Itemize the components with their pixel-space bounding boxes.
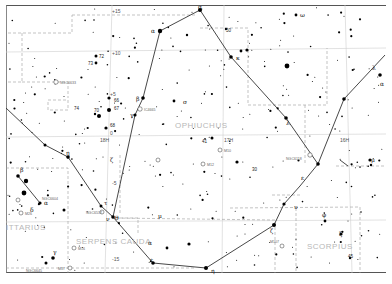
star-faint (293, 35, 294, 36)
star-faint (207, 194, 209, 196)
star-faint (283, 22, 285, 24)
constellation-label-sagittarius: ITTARIUS (6, 223, 46, 232)
star-faint (355, 241, 356, 242)
constellation-names: OPHIUCHUS SERPENS CAUDA SCORPIUS ITTARIU… (6, 121, 353, 251)
star-faint (29, 156, 30, 157)
star-faint (51, 171, 52, 172)
star-faint (118, 222, 120, 224)
star-label-zeta: ζ (270, 227, 274, 235)
star-faint (237, 235, 238, 236)
star-faint (190, 137, 192, 139)
star-faint (79, 143, 81, 145)
star-faint (348, 99, 349, 100)
star-faint (23, 102, 24, 103)
star-faint (319, 96, 321, 98)
star-faint (9, 68, 11, 70)
dso-m26 (19, 211, 23, 215)
scutum-figure (18, 176, 40, 203)
star-faint (34, 58, 35, 59)
star-faint (162, 186, 163, 187)
star-faint (161, 50, 162, 51)
dso-label-m12: M12 (207, 163, 214, 167)
star-faint (209, 137, 210, 138)
star-faint (268, 109, 269, 110)
star-faint (56, 68, 57, 69)
star-faint (359, 18, 361, 20)
star-faint (312, 81, 313, 82)
star-faint (112, 35, 114, 37)
star-faint (308, 110, 309, 111)
star-faint (182, 184, 183, 185)
star-faint (163, 123, 165, 125)
star-faint (379, 234, 380, 235)
star-faint (378, 159, 380, 161)
star-faint (193, 163, 194, 164)
star-label-lambda2: λ (372, 64, 376, 71)
star-bright (100, 205, 103, 208)
star-faint (360, 211, 362, 213)
star-faint (359, 166, 361, 168)
star-faint (307, 74, 309, 76)
star-faint (93, 170, 95, 172)
star-faint (283, 161, 284, 162)
star-faint (119, 145, 120, 146)
star-faint (211, 217, 213, 219)
ra-label-17h: 17H (224, 137, 234, 143)
dec-label-minus5: -5 (112, 180, 117, 186)
star-faint (269, 110, 271, 112)
star-faint (189, 70, 190, 71)
star-label-67: 67 (114, 106, 120, 111)
star-faint (296, 267, 298, 269)
star-faint (123, 173, 124, 174)
star-faint (282, 95, 284, 97)
star-faint (137, 61, 139, 63)
star-faint (199, 195, 201, 197)
star-faint (220, 75, 221, 76)
star-faint (341, 116, 343, 118)
star-faint (217, 49, 219, 51)
star-faint (378, 85, 379, 86)
dec-label-plus15: +15 (112, 8, 121, 14)
dec-line-10 (6, 48, 386, 52)
star-faint (293, 253, 295, 255)
star-faint (251, 50, 252, 51)
star-faint (275, 127, 277, 129)
star-faint (215, 173, 216, 174)
star-label-theta: θ (115, 214, 119, 221)
star-faint (170, 38, 171, 39)
constellation-label-serpens-cauda: SERPENS CAUDA (76, 237, 151, 246)
star-faint (378, 102, 379, 103)
star-faint (369, 68, 370, 69)
star-label-alpha-oph: α (151, 27, 155, 34)
star-faint (134, 47, 136, 49)
star-faint (221, 175, 223, 177)
star-faint (35, 217, 36, 218)
star-chart[interactable]: OPHIUCHUS SERPENS CAUDA SCORPIUS ITTARIU… (0, 0, 392, 284)
star-faint (82, 169, 83, 170)
star-bright (158, 29, 162, 33)
star-faint (133, 252, 134, 253)
star-faint (344, 16, 345, 17)
star-faint (350, 35, 352, 37)
star-faint (368, 230, 370, 232)
star-faint (226, 252, 227, 253)
star-faint (329, 263, 330, 264)
constellation-boundaries (6, 15, 386, 273)
star-faint (36, 76, 37, 77)
star-bright (342, 97, 346, 101)
star-faint (39, 123, 40, 124)
star-label-eta: η (211, 267, 215, 275)
star-label-eta-ser: η (66, 149, 70, 157)
dso-label-m16: M16 (78, 247, 85, 251)
star-label-72: 72 (99, 54, 105, 59)
dec-label-0: 0 (110, 130, 113, 136)
star-faint (147, 207, 149, 209)
star-faint (81, 184, 83, 186)
dso-ngc6604 (16, 198, 20, 202)
star-label-50: 50 (226, 28, 232, 33)
constellation-label-ophiuchus: OPHIUCHUS (175, 121, 228, 130)
star-faint (99, 101, 100, 102)
star-label-66: 66 (114, 98, 120, 103)
star-faint (202, 199, 204, 201)
star-faint (67, 185, 69, 187)
